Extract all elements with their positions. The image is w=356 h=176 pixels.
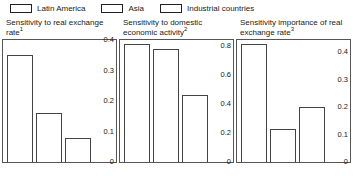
bar-slot	[299, 40, 328, 162]
bar-slot	[36, 40, 65, 162]
y-axis-tick-label: 0.2	[338, 103, 348, 111]
bar-group	[7, 40, 94, 162]
bar	[7, 55, 33, 162]
plot-inner	[3, 40, 94, 162]
plot-inner	[237, 40, 328, 162]
y-axis-tick-label: 0.1	[104, 128, 114, 136]
y-axis-tick-label: 0.8	[221, 42, 231, 50]
plot-area: 00.10.20.30.4	[236, 39, 351, 163]
legend-item-latin-america: Latin America	[10, 4, 85, 13]
legend-item-asia: Asia	[101, 4, 144, 13]
panel-title-footnote: 1	[20, 26, 23, 32]
bar-slot	[182, 40, 211, 162]
panel-title-text: Sensitivity to domestic economic activit…	[123, 18, 202, 37]
legend-label: Latin America	[37, 4, 85, 13]
bar-slot	[7, 40, 36, 162]
plot-inner	[120, 40, 211, 162]
y-axis-tick-label: 0.4	[104, 36, 114, 44]
y-axis: 00.20.40.60.8	[211, 40, 232, 162]
bar	[65, 138, 91, 162]
bar	[153, 49, 179, 162]
bar-slot	[124, 40, 153, 162]
panel-title-footnote: 3	[291, 26, 294, 32]
panel-title-footnote: 2	[184, 26, 187, 32]
y-axis-tick-label: 0.2	[104, 97, 114, 105]
chart-panel-sensitivity-importance: Sensitivity importance of real exchange …	[236, 16, 353, 163]
y-axis-tick-label: 0.3	[104, 67, 114, 75]
y-axis: 00.10.20.30.4	[94, 40, 115, 162]
bar-group	[124, 40, 211, 162]
legend-swatch-icon	[101, 4, 123, 13]
bar-slot	[241, 40, 270, 162]
bar-slot	[65, 40, 94, 162]
bar	[124, 44, 150, 162]
panel-title: Sensitivity to real exchange rate1	[2, 16, 117, 39]
y-axis-tick-label: 0.4	[221, 100, 231, 108]
bar	[241, 44, 267, 162]
legend-label: Asia	[128, 4, 144, 13]
bar	[270, 129, 296, 162]
plot-area: 00.10.20.30.4	[2, 39, 117, 163]
bar-group	[241, 40, 328, 162]
y-axis-tick-label: 0.1	[338, 131, 348, 139]
y-axis-tick-label: 0.4	[338, 49, 348, 57]
bar	[182, 95, 208, 162]
y-axis-tick-label: 0.2	[221, 129, 231, 137]
y-axis-tick-label: 0.6	[221, 71, 231, 79]
chart-panels: Sensitivity to real exchange rate1 00.10…	[0, 16, 356, 163]
legend-swatch-icon	[160, 4, 182, 13]
bar	[36, 113, 62, 162]
panel-title: Sensitivity importance of real exchange …	[236, 16, 351, 39]
legend-label: Industrial countries	[187, 4, 254, 13]
y-axis-tick-label: 0	[227, 158, 231, 166]
bar-slot	[153, 40, 182, 162]
chart-legend: Latin America Asia Industrial countries	[0, 0, 356, 16]
legend-swatch-icon	[10, 4, 32, 13]
chart-panel-real-exchange-rate: Sensitivity to real exchange rate1 00.10…	[2, 16, 119, 163]
y-axis-tick-label: 0.3	[338, 76, 348, 84]
plot-area: 00.20.40.60.8	[119, 39, 234, 163]
y-axis-tick-label: 0	[110, 158, 114, 166]
legend-item-industrial-countries: Industrial countries	[160, 4, 254, 13]
y-axis: 00.10.20.30.4	[328, 40, 349, 162]
bar	[299, 107, 325, 162]
panel-title: Sensitivity to domestic economic activit…	[119, 16, 234, 39]
chart-panel-domestic-economic-activity: Sensitivity to domestic economic activit…	[119, 16, 236, 163]
bar-slot	[270, 40, 299, 162]
y-axis-tick-label: 0	[344, 158, 348, 166]
